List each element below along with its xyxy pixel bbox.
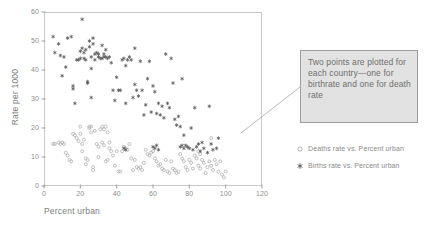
data-point — [190, 127, 193, 130]
asterisk-filled-icon — [296, 162, 304, 170]
data-point — [144, 148, 147, 151]
data-point — [112, 154, 115, 157]
data-point — [179, 153, 182, 156]
data-point — [206, 151, 209, 154]
data-point — [95, 142, 98, 145]
data-point — [93, 129, 96, 132]
data-point — [99, 128, 102, 131]
data-point — [121, 150, 124, 153]
data-point — [183, 147, 186, 150]
data-point — [77, 140, 80, 143]
data-point — [201, 158, 204, 161]
data-point — [193, 154, 196, 157]
data-point — [103, 53, 106, 56]
x-tick-label: 100 — [217, 190, 235, 197]
data-point — [74, 102, 77, 105]
data-point — [84, 48, 87, 51]
data-point — [79, 125, 82, 128]
data-point — [102, 144, 105, 147]
data-point — [134, 83, 137, 86]
data-point — [177, 115, 180, 118]
data-point — [64, 151, 67, 154]
data-point — [82, 138, 85, 141]
data-point — [188, 158, 191, 161]
data-point — [146, 77, 149, 80]
y-tick-label: 60 — [23, 8, 39, 15]
data-point — [75, 137, 78, 140]
data-point — [90, 67, 93, 70]
data-point — [108, 147, 111, 150]
data-point — [179, 125, 182, 128]
y-tick-label: 20 — [23, 124, 39, 131]
data-point — [114, 99, 117, 102]
data-point — [182, 160, 185, 163]
data-point — [141, 89, 144, 92]
data-point — [164, 158, 167, 161]
data-point — [92, 37, 95, 40]
data-point — [135, 89, 138, 92]
data-point — [215, 147, 218, 150]
data-point — [183, 134, 186, 137]
legend-label-deaths: Deaths rate vs. Percent urban — [308, 145, 404, 152]
data-point — [63, 55, 66, 58]
data-point — [132, 169, 135, 172]
data-point — [157, 102, 160, 105]
data-point — [203, 147, 206, 150]
legend-entry-births: Births rate vs. Percent urban — [294, 161, 412, 170]
data-point — [83, 51, 86, 54]
data-point — [101, 125, 104, 128]
data-point — [57, 42, 60, 45]
data-point — [150, 111, 153, 114]
data-point — [104, 125, 107, 128]
data-point — [84, 163, 87, 166]
data-point — [172, 82, 175, 85]
data-point — [104, 48, 107, 51]
data-point — [130, 58, 133, 61]
data-point — [197, 150, 200, 153]
data-point — [195, 157, 198, 160]
x-tick-label: 0 — [35, 190, 53, 197]
data-point — [206, 166, 209, 169]
data-point — [115, 150, 118, 153]
data-point — [175, 124, 178, 127]
data-point — [152, 84, 155, 87]
x-tick-label: 20 — [71, 190, 89, 197]
data-point — [92, 169, 95, 172]
data-point — [197, 142, 200, 145]
x-tick-label: 40 — [108, 190, 126, 197]
data-point — [112, 89, 115, 92]
data-point — [134, 47, 137, 50]
data-point — [119, 89, 122, 92]
data-point — [173, 118, 176, 121]
data-point — [72, 87, 75, 90]
data-point — [97, 145, 100, 148]
data-point — [168, 106, 171, 109]
data-point — [81, 150, 84, 153]
data-point — [155, 144, 158, 147]
data-point — [88, 45, 91, 48]
data-point — [90, 55, 93, 58]
legend-label-births: Births rate vs. Percent urban — [308, 162, 400, 169]
data-point — [124, 102, 127, 105]
data-point — [106, 131, 109, 134]
data-point — [186, 169, 189, 172]
data-point — [219, 160, 222, 163]
data-point — [110, 61, 113, 64]
data-point — [212, 148, 215, 151]
data-point — [193, 106, 196, 109]
data-point — [170, 160, 173, 163]
data-point — [161, 105, 164, 108]
circle-open-icon — [296, 145, 304, 153]
data-point — [211, 169, 214, 172]
data-point — [184, 166, 187, 169]
data-point — [79, 132, 82, 135]
data-point — [66, 154, 69, 157]
data-point — [79, 50, 82, 53]
data-point — [137, 95, 140, 98]
y-tick-label: 0 — [23, 182, 39, 189]
tick-marks — [42, 12, 263, 189]
data-point — [144, 103, 147, 106]
data-point — [191, 167, 194, 170]
data-point — [61, 74, 64, 77]
data-point — [54, 51, 57, 54]
